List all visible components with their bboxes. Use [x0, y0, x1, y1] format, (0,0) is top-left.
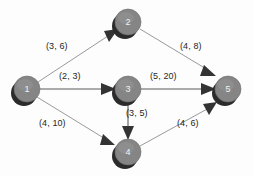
edge-label-3-4: (3, 5): [126, 108, 148, 118]
node-3-label: 3: [125, 84, 130, 94]
node-2[interactable]: 2: [112, 9, 141, 39]
edge-4-5-arrowhead: [203, 102, 217, 115]
edge-label-2-5: (4, 8): [180, 41, 202, 51]
edge-4-5-line: [140, 108, 209, 146]
node-4-label: 4: [125, 147, 130, 157]
node-2-label: 2: [125, 17, 130, 27]
edge-label-1-4: (4, 10): [39, 118, 66, 128]
edge-3-5: [141, 83, 216, 95]
edge-label-4-5: (4, 6): [177, 118, 199, 128]
node-5-label: 5: [225, 84, 230, 94]
node-4[interactable]: 4: [112, 139, 141, 169]
edge-label-1-3: (2, 3): [59, 71, 81, 81]
node-5[interactable]: 5: [212, 76, 241, 106]
node-3[interactable]: 3: [112, 76, 141, 106]
edge-1-3: [40, 83, 116, 95]
edge-3-4-arrowhead: [122, 126, 134, 140]
edge-3-4: [122, 101, 134, 140]
graph-diagram: 1 2 3 4: [0, 0, 253, 176]
node-1-label: 1: [24, 84, 29, 94]
edge-label-3-5: (5, 20): [150, 71, 177, 81]
edge-1-4-arrowhead: [100, 134, 115, 145]
graph-canvas: 1 2 3 4: [0, 0, 253, 176]
edge-label-1-2: (3, 6): [46, 41, 68, 51]
node-1[interactable]: 1: [11, 76, 40, 106]
edge-2-5: [140, 29, 216, 76]
